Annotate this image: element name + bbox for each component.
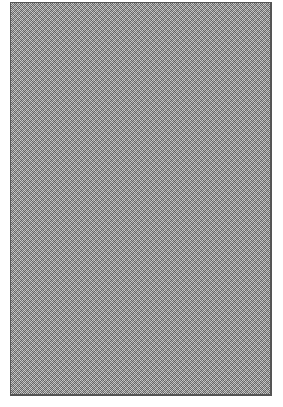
dithered-pattern-panel	[10, 2, 272, 396]
halftone-overlay	[11, 3, 270, 394]
